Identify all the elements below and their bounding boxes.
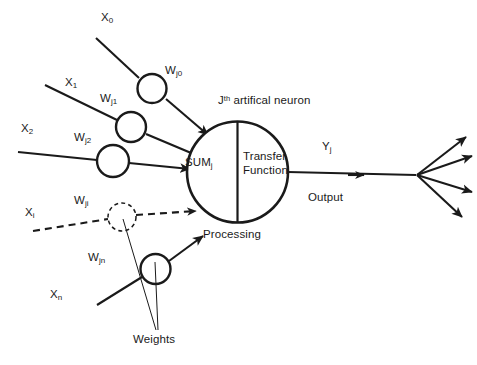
sum-label: SUMj (185, 156, 213, 169)
weights-callout-label: Weights (133, 333, 175, 346)
output-label-yj: Yj (322, 140, 332, 153)
input-path-xi (33, 203, 196, 231)
weight-label-jn: Wjn (88, 251, 105, 264)
weight-node-ji (108, 203, 136, 231)
neuron-title: Jth artifical neuron (218, 94, 310, 107)
input-label-x0: X0 (101, 11, 113, 24)
neuron-diagram: X0 X1 X2 Xi Xn Wj0 Wj1 Wj2 Wji Wjn Weigh… (0, 0, 477, 365)
input-label-x1: X1 (65, 76, 77, 89)
weight-node-j1 (116, 112, 146, 142)
input-path-x0 (96, 38, 208, 135)
weight-label-j0: Wj0 (165, 64, 182, 77)
input-path-x1 (45, 85, 203, 158)
weight-label-j2: Wj2 (74, 131, 91, 144)
transfer-function-label: Transfer Function (243, 149, 288, 177)
fanout-arrow-1 (417, 137, 466, 175)
processing-label: Processing (203, 228, 261, 241)
input-label-xn: Xn (50, 288, 62, 301)
weight-node-j0 (138, 74, 167, 103)
weight-node-j2 (97, 145, 129, 177)
diagram-canvas (0, 0, 477, 365)
input-label-x2: X2 (21, 122, 33, 135)
input-path-x2 (18, 145, 190, 177)
weight-label-ji: Wji (74, 194, 89, 207)
input-label-xi: Xi (25, 206, 35, 219)
input-path-xn (97, 236, 203, 305)
output-caption: Output (308, 191, 343, 204)
output-path (288, 137, 472, 217)
weight-label-j1: Wj1 (100, 92, 117, 105)
fanout-arrow-2 (417, 156, 472, 175)
